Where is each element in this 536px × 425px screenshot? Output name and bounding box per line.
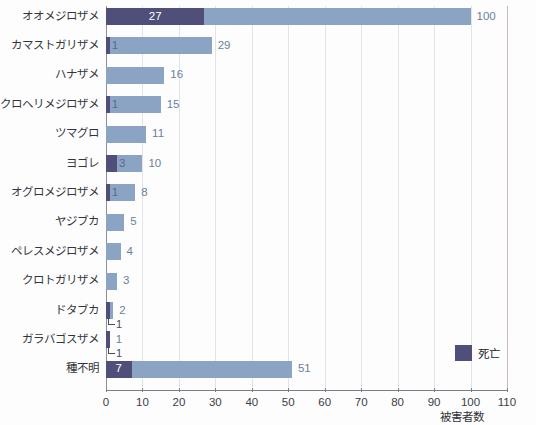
tick-mark-30 (215, 388, 216, 392)
tick-mark-90 (434, 388, 435, 392)
value-label-total: 1 (116, 334, 122, 346)
bar-death (106, 302, 110, 319)
value-label-total: 4 (127, 246, 133, 258)
tick-mark-60 (325, 388, 326, 392)
bar-total (106, 273, 117, 290)
legend-swatch-death (455, 345, 472, 361)
category-label: オグロメジロザメ (0, 187, 99, 199)
value-label-death: 1 (116, 348, 122, 359)
x-tick-label: 10 (136, 397, 149, 409)
shark-attack-bar-chart: オオメジロザメ10027カマストガリザメ291ハナザメ16クロヘリメジロザメ15… (0, 0, 536, 425)
value-label-total: 15 (167, 99, 180, 111)
bar-total (106, 243, 121, 260)
category-label: ヤジブカ (0, 216, 99, 228)
x-tick-label: 100 (461, 397, 480, 409)
x-axis-title: 被害者数 (440, 408, 484, 424)
x-tick-label: 20 (173, 397, 186, 409)
bar-death (106, 155, 117, 172)
value-label-death: 27 (106, 11, 204, 23)
bar-total (106, 126, 146, 143)
bar-total (106, 67, 164, 84)
tick-mark-80 (398, 388, 399, 392)
value-label-total: 5 (130, 216, 136, 228)
value-label-total: 8 (141, 187, 147, 199)
value-label-total: 3 (123, 275, 129, 287)
tick-mark-110 (507, 388, 508, 392)
bar-total (106, 214, 124, 231)
legend-label-death: 死亡 (478, 345, 500, 361)
callout-leader-line (108, 347, 115, 354)
tick-mark-100 (471, 388, 472, 392)
value-label-death: 7 (106, 363, 132, 375)
bar-total (106, 184, 135, 201)
bar-death (106, 331, 110, 348)
x-tick-label: 70 (355, 397, 368, 409)
bar-total (106, 361, 292, 378)
x-tick-label: 80 (391, 397, 404, 409)
tick-mark-70 (361, 388, 362, 392)
tick-mark-50 (288, 388, 289, 392)
category-label: ハナザメ (0, 69, 99, 81)
tick-mark-0 (106, 388, 107, 392)
legend: 死亡 (455, 345, 500, 361)
category-label: カマストガリザメ (0, 40, 99, 52)
bar-total (106, 37, 212, 54)
value-label-total: 2 (119, 305, 125, 317)
value-label-total: 29 (218, 40, 231, 52)
value-label-total: 10 (148, 158, 161, 170)
value-label-death: 1 (112, 187, 118, 199)
bar-death (106, 37, 110, 54)
value-label-death: 1 (112, 40, 118, 52)
bar-death (106, 184, 110, 201)
category-label: クロトガリザメ (0, 275, 99, 287)
callout-leader-line (108, 318, 115, 325)
value-label-death: 1 (112, 99, 118, 111)
x-tick-label: 50 (282, 397, 295, 409)
category-label: ツマグロ (0, 128, 99, 140)
category-label: クロヘリメジロザメ (0, 99, 99, 111)
value-label-total: 51 (298, 363, 311, 375)
category-label: ペレスメジロザメ (0, 246, 99, 258)
category-label: 種不明 (0, 363, 99, 375)
x-axis-line (106, 390, 507, 391)
bar-rows: オオメジロザメ10027カマストガリザメ291ハナザメ16クロヘリメジロザメ15… (0, 0, 536, 390)
bar-death (106, 96, 110, 113)
category-label: ヨゴレ (0, 158, 99, 170)
x-tick-label: 90 (428, 397, 441, 409)
value-label-total: 16 (170, 69, 183, 81)
x-tick-label: 0 (103, 397, 109, 409)
value-label-total: 100 (477, 11, 496, 23)
x-tick-label: 60 (318, 397, 331, 409)
category-label: ガラバゴスザメ (0, 334, 99, 346)
value-label-death: 1 (116, 319, 122, 330)
category-label: ドタブカ (0, 305, 99, 317)
x-tick-label: 110 (498, 397, 516, 409)
tick-mark-40 (252, 388, 253, 392)
tick-mark-20 (179, 388, 180, 392)
value-label-total: 11 (152, 128, 164, 140)
x-tick-label: 30 (209, 397, 222, 409)
tick-mark-10 (142, 388, 143, 392)
value-label-death: 3 (119, 158, 125, 170)
category-label: オオメジロザメ (0, 11, 99, 23)
x-tick-label: 40 (245, 397, 258, 409)
